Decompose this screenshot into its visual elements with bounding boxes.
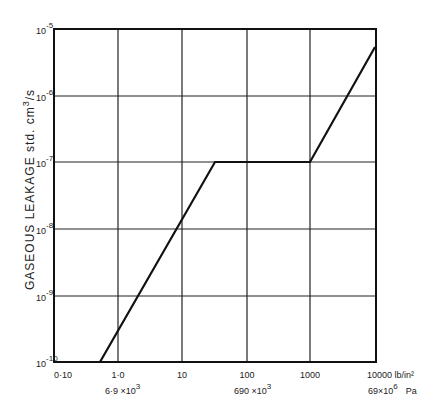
svg-text:100: 100 [239, 370, 254, 380]
svg-text:1·0: 1·0 [111, 370, 124, 380]
svg-text:10000 lb/in²: 10000 lb/in² [367, 370, 414, 380]
svg-text:0·10: 0·10 [54, 370, 72, 380]
svg-text:6·9 ×103: 6·9 ×103 [105, 382, 141, 396]
leakage-chart: 10-5 10-6 10-7 10-8 10-9 10-10 GASEOUS L… [0, 0, 435, 411]
plot-frame [54, 29, 376, 362]
svg-text:10-8: 10-8 [36, 221, 54, 236]
leakage-series-line [100, 47, 375, 362]
svg-text:10-9: 10-9 [36, 288, 54, 303]
x-axis-ticks: 0·10 1·0 10 100 1000 10000 lb/in² [54, 370, 414, 380]
grid [54, 29, 376, 362]
svg-text:1000: 1000 [300, 370, 320, 380]
svg-text:69×106Pa: 69×106Pa [368, 382, 417, 396]
y-axis-label: GASEOUS LEAKAGE std. cm3/s [21, 89, 37, 290]
svg-text:10-6: 10-6 [36, 88, 54, 103]
svg-text:10-10: 10-10 [36, 354, 58, 369]
svg-text:10-5: 10-5 [36, 21, 54, 36]
svg-text:10-7: 10-7 [36, 154, 54, 169]
svg-text:690 ×103: 690 ×103 [234, 382, 272, 396]
svg-text:10: 10 [177, 370, 187, 380]
x-axis-secondary-ticks: 6·9 ×103 690 ×103 69×106Pa [105, 382, 417, 396]
